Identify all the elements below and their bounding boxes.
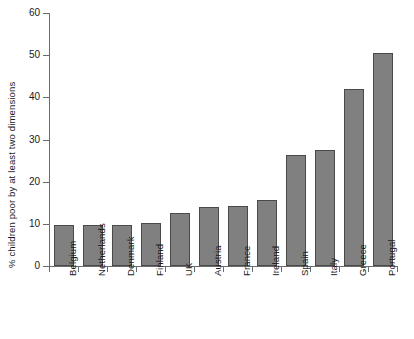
x-axis-label-text: France	[242, 246, 252, 276]
y-axis-tick-label: 10	[0, 219, 40, 229]
x-axis-tick	[136, 267, 137, 272]
bar	[373, 53, 393, 266]
x-axis-tick	[281, 267, 282, 272]
bar-chart: % children poor by at least two dimensio…	[0, 0, 414, 339]
y-axis-tick-label: 0	[0, 261, 40, 271]
x-axis-tick	[252, 267, 253, 272]
x-axis-label-text: Netherlands	[97, 223, 107, 276]
x-axis-tick	[397, 267, 398, 272]
x-axis-label-text: Ireland	[271, 246, 281, 276]
x-axis-tick	[223, 267, 224, 272]
x-axis-label-text: Denmark	[126, 236, 136, 276]
x-axis-tick	[107, 267, 108, 272]
x-axis-label-text: Austria	[213, 245, 223, 276]
x-axis-label-text: Italy	[329, 258, 339, 276]
x-axis-label-text: Portugal	[387, 239, 397, 276]
y-axis-tick-label: 50	[0, 50, 40, 60]
bar	[170, 213, 190, 266]
x-axis-label-text: Belgium	[68, 241, 78, 276]
x-axis-label-text: Spain	[300, 251, 310, 276]
x-axis-label-text: Greece	[358, 244, 368, 276]
x-axis-tick	[310, 267, 311, 272]
x-axis-label-text: Finland	[155, 244, 165, 276]
y-axis-tick	[43, 55, 49, 56]
y-axis-tick	[43, 13, 49, 14]
y-axis-tick-label: 30	[0, 135, 40, 145]
x-axis-tick	[368, 267, 369, 272]
x-axis-tick	[165, 267, 166, 272]
y-axis-tick	[43, 224, 49, 225]
bar	[286, 155, 306, 266]
x-axis-tick	[78, 267, 79, 272]
x-axis-tick	[339, 267, 340, 272]
y-axis-tick	[43, 97, 49, 98]
y-axis-tick-label: 60	[0, 8, 40, 18]
bar	[344, 89, 364, 266]
y-axis-tick-label: 40	[0, 92, 40, 102]
x-axis-label-text: UK	[184, 263, 194, 277]
bar	[315, 150, 335, 266]
y-axis-tick	[43, 140, 49, 141]
y-axis-tick	[43, 182, 49, 183]
x-axis-tick	[194, 267, 195, 272]
x-axis-tick	[49, 267, 50, 272]
y-axis-tick-label: 20	[0, 177, 40, 187]
y-axis-line	[49, 13, 50, 267]
